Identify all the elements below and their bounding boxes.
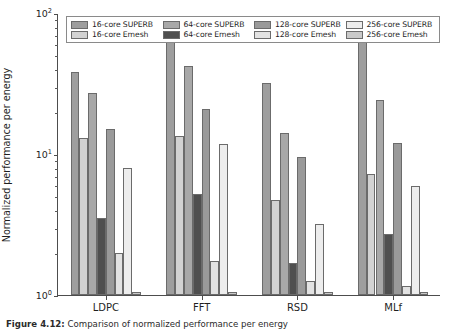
bar [306,281,315,295]
bar [376,100,385,295]
bar [367,174,376,295]
bar [297,157,306,296]
y-tick-minor [55,161,58,162]
x-tick-label: LDPC [93,302,119,313]
legend-swatch [163,31,180,39]
x-tick [106,295,107,300]
y-tick-minor [55,254,58,255]
legend-label: 128-core Emesh [275,30,336,39]
legend-item[interactable]: 256-core Emesh [346,30,436,39]
bar [97,218,106,295]
bar [115,253,124,295]
x-tick-label: MLf [384,302,402,313]
bars-layer [58,14,440,295]
y-tick-major [54,155,59,156]
legend-label: 128-core SUPERB [275,20,341,29]
legend-label: 256-core Emesh [367,30,428,39]
bar [123,168,132,295]
bar [193,194,202,295]
bar [402,286,411,295]
bar [420,292,429,295]
bar [175,136,184,295]
x-tick [202,295,203,300]
legend-label: 256-core SUPERB [367,20,433,29]
y-tick-minor [55,211,58,212]
legend-label: 16-core SUPERB [92,20,153,29]
bar [184,66,193,295]
chart-legend: 16-core SUPERB64-core SUPERB128-core SUP… [66,16,440,43]
bar [384,234,393,295]
bar [71,72,80,295]
bar [271,200,280,295]
legend-swatch [71,21,88,29]
y-tick-minor [55,229,58,230]
legend-swatch [71,31,88,39]
figure-container: Normalized performance per energy 100101… [0,0,452,330]
legend-label: 64-core SUPERB [184,20,245,29]
y-tick-minor [55,186,58,187]
y-tick-label: 100 [36,291,52,301]
legend-label: 64-core Emesh [184,30,240,39]
bar [411,186,420,295]
bar [106,129,115,295]
figure-caption: Figure 4.12: Comparison of normalized pe… [6,319,446,329]
y-tick-minor [55,177,58,178]
legend-swatch [254,21,271,29]
y-tick-minor [55,70,58,71]
bar [324,292,333,295]
bar [262,83,271,295]
y-tick-label: 101 [36,150,52,160]
bar [202,109,211,295]
x-tick [297,295,298,300]
caption-prefix: Figure 4.12: [6,319,65,329]
legend-item[interactable]: 256-core SUPERB [346,20,436,29]
bar [79,138,88,295]
legend-swatch [346,21,363,29]
legend-item[interactable]: 128-core SUPERB [254,20,344,29]
y-tick-minor [55,169,58,170]
legend-item[interactable]: 64-core Emesh [163,30,253,39]
bar [132,292,141,295]
bar [358,32,367,295]
bar [166,37,175,295]
y-tick-minor [55,88,58,89]
y-tick-minor [55,197,58,198]
bar [228,292,237,295]
x-tick [393,295,394,300]
caption-text: Comparison of normalized performance per… [68,319,288,329]
y-tick-minor [55,56,58,57]
y-tick-minor [55,113,58,114]
legend-item[interactable]: 16-core SUPERB [71,20,161,29]
y-tick-major [54,14,59,15]
y-tick-minor [55,28,58,29]
legend-label: 16-core Emesh [92,30,148,39]
bar [88,93,97,295]
legend-swatch [254,31,271,39]
legend-swatch [346,31,363,39]
legend-item[interactable]: 16-core Emesh [71,30,161,39]
y-tick-major [54,296,59,297]
bar [393,143,402,295]
plot-area: 100101102 LDPCFFTRSDMLf [57,14,440,296]
x-tick-label: RSD [287,302,308,313]
bar [289,263,298,295]
bar [315,224,324,295]
y-tick-label: 102 [36,9,52,19]
bar [280,133,289,295]
bar [219,144,228,295]
legend-item[interactable]: 128-core Emesh [254,30,344,39]
legend-swatch [163,21,180,29]
y-tick-minor [55,45,58,46]
x-tick-label: FFT [193,302,210,313]
bar [210,261,219,295]
y-tick-minor [55,20,58,21]
legend-item[interactable]: 64-core SUPERB [163,20,253,29]
y-tick-minor [55,36,58,37]
y-axis-title: Normalized performance per energy [1,68,12,242]
